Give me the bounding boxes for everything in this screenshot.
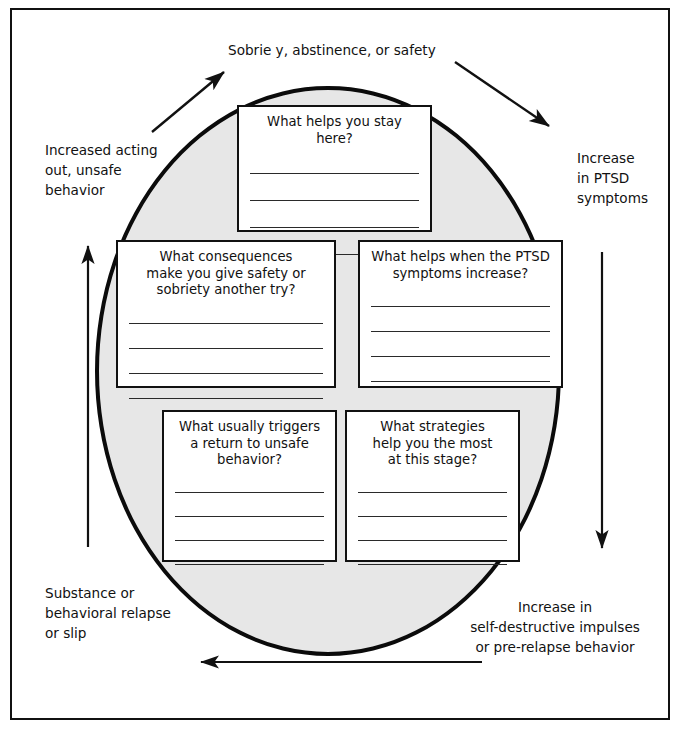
write-line[interactable] — [175, 493, 324, 517]
write-line[interactable] — [371, 282, 550, 307]
write-line[interactable] — [371, 307, 550, 332]
prompt-title: What strategies help you the most at thi… — [358, 419, 507, 469]
stage-label-ptsd-increase: Increase in PTSD symptoms — [577, 148, 677, 208]
prompt-title: What helps you stay here? — [250, 114, 419, 147]
write-lines[interactable] — [175, 469, 324, 567]
write-lines[interactable] — [371, 282, 550, 384]
stage-label-sobriety: Sobrie y, abstinence, or safety — [228, 40, 488, 60]
write-line[interactable] — [129, 299, 323, 324]
stage-label-acting-out: Increased acting out, unsafe behavior — [45, 140, 185, 200]
write-line[interactable] — [129, 349, 323, 374]
stage-label-relapse: Substance or behavioral relapse or slip — [45, 583, 205, 643]
prompt-title: What usually triggers a return to unsafe… — [175, 419, 324, 469]
write-line[interactable] — [358, 469, 507, 493]
write-line[interactable] — [175, 469, 324, 493]
write-line[interactable] — [371, 357, 550, 382]
prompt-box-triggers[interactable]: What usually triggers a return to unsafe… — [162, 410, 337, 562]
prompt-box-ptsd-helps[interactable]: What helps when the PTSD symptoms increa… — [358, 240, 563, 388]
stage-label-self-destructive: Increase in self-destructive impulses or… — [440, 597, 670, 657]
write-line[interactable] — [175, 517, 324, 541]
write-line[interactable] — [358, 517, 507, 541]
prompt-title: What helps when the PTSD symptoms increa… — [371, 249, 550, 282]
write-line[interactable] — [358, 493, 507, 517]
prompt-box-consequences[interactable]: What consequences make you give safety o… — [116, 240, 336, 388]
write-line[interactable] — [250, 201, 419, 228]
write-line[interactable] — [358, 541, 507, 565]
write-line[interactable] — [250, 174, 419, 201]
write-line[interactable] — [175, 541, 324, 565]
prompt-title: What consequences make you give safety o… — [129, 249, 323, 299]
prompt-box-strategies[interactable]: What strategies help you the most at thi… — [345, 410, 520, 562]
write-lines[interactable] — [358, 469, 507, 567]
write-line[interactable] — [371, 332, 550, 357]
write-line[interactable] — [129, 324, 323, 349]
write-lines[interactable] — [129, 299, 323, 401]
write-line[interactable] — [250, 147, 419, 174]
write-line[interactable] — [129, 374, 323, 399]
prompt-box-stay-here[interactable]: What helps you stay here? — [237, 105, 432, 232]
worksheet-page: Sobrie y, abstinence, or safety Increase… — [0, 0, 680, 745]
